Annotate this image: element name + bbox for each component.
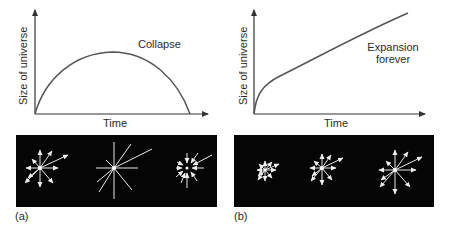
y-axis-label-a: Size of universe (17, 27, 29, 105)
y-axis-label-b: Size of universe (237, 27, 249, 105)
curve-label-expansion-line1: Expansion (358, 41, 428, 53)
panel-tag-b: (b) (234, 210, 247, 222)
graph-a (35, 10, 208, 114)
panel-tag-a: (a) (15, 210, 28, 222)
curve-label-expansion: Expansion forever (358, 41, 428, 65)
curve-label-expansion-line2: forever (358, 53, 428, 65)
diagram-canvas (0, 0, 452, 238)
x-axis-label-b: Time (324, 117, 348, 129)
curve-label-collapse: Collapse (138, 38, 181, 50)
x-axis-label-a: Time (103, 117, 127, 129)
collapse-curve (35, 52, 190, 114)
